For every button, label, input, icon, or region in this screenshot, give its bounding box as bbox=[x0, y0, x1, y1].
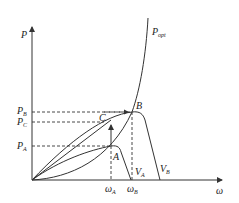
popt-label: Popt bbox=[151, 26, 166, 38]
diagram-canvas: P ω Popt B C A VA VB PB PC PA ωA ωB bbox=[0, 0, 239, 203]
vb-label: VB bbox=[160, 163, 170, 175]
pa-tick: PA bbox=[16, 140, 27, 152]
va-label: VA bbox=[135, 166, 145, 178]
point-b-label: B bbox=[136, 100, 142, 111]
wb-tick: ωB bbox=[127, 183, 138, 195]
x-axis-label: ω bbox=[216, 185, 223, 196]
line-origin-c bbox=[32, 120, 111, 180]
wa-tick: ωA bbox=[105, 183, 116, 195]
y-axis-label: P bbox=[20, 29, 27, 40]
optimal-power-curve bbox=[32, 18, 148, 180]
point-c-label: C bbox=[99, 112, 106, 123]
pc-tick: PC bbox=[16, 116, 28, 128]
point-a-label: A bbox=[112, 151, 120, 162]
power-speed-diagram: P ω Popt B C A VA VB PB PC PA ωA ωB bbox=[0, 0, 239, 203]
